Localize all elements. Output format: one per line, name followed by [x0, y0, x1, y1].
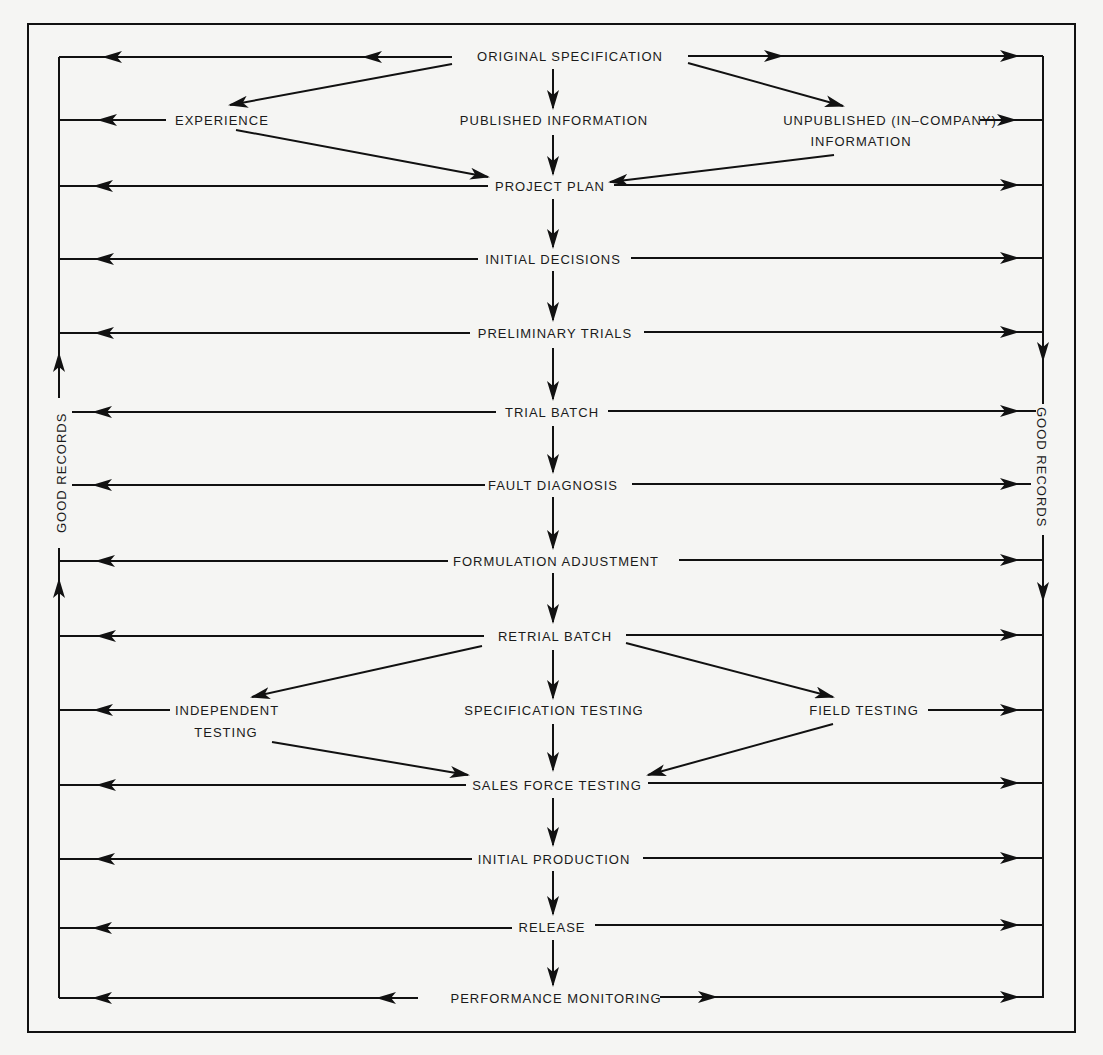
right-records-rail: GOOD RECORDS — [1034, 56, 1049, 998]
row-sales-force-testing: SALES FORCE TESTING — [59, 777, 1043, 845]
row-performance-monitoring: PERFORMANCE MONITORING — [59, 991, 1043, 1006]
node-initial-production: INITIAL PRODUCTION — [478, 852, 631, 867]
node-independent-testing: INDEPENDENT — [175, 703, 279, 718]
node-sales-force-testing: SALES FORCE TESTING — [472, 778, 642, 793]
node-independent-testing-line2: TESTING — [194, 725, 257, 740]
node-experience: EXPERIENCE — [175, 113, 269, 128]
row-formulation-adjustment: FORMULATION ADJUSTMENT — [59, 554, 1043, 622]
left-records-rail: GOOD RECORDS — [53, 57, 69, 998]
row-project-plan: PROJECT PLAN — [59, 179, 1043, 247]
left-rail-label: GOOD RECORDS — [54, 413, 69, 533]
node-original-specification: ORIGINAL SPECIFICATION — [477, 49, 663, 64]
row-information-sources: EXPERIENCE PUBLISHED INFORMATION UNPUBLI… — [59, 113, 1043, 182]
node-project-plan: PROJECT PLAN — [495, 179, 605, 194]
row-preliminary-trials: PRELIMINARY TRIALS — [59, 326, 1043, 399]
row-original-specification: ORIGINAL SPECIFICATION — [59, 49, 1043, 108]
node-fault-diagnosis: FAULT DIAGNOSIS — [488, 478, 618, 493]
node-formulation-adjustment: FORMULATION ADJUSTMENT — [453, 554, 659, 569]
row-trial-batch: TRIAL BATCH — [72, 405, 1036, 472]
node-unpublished-information: UNPUBLISHED (IN–COMPANY) — [783, 113, 997, 128]
node-published-information: PUBLISHED INFORMATION — [460, 113, 648, 128]
node-trial-batch: TRIAL BATCH — [505, 405, 599, 420]
node-unpublished-information-line2: INFORMATION — [810, 134, 911, 149]
node-retrial-batch: RETRIAL BATCH — [498, 629, 612, 644]
node-field-testing: FIELD TESTING — [809, 703, 919, 718]
row-retrial-batch: RETRIAL BATCH — [59, 629, 1043, 698]
row-initial-decisions: INITIAL DECISIONS — [59, 252, 1043, 320]
outer-frame — [28, 24, 1075, 1032]
node-preliminary-trials: PRELIMINARY TRIALS — [478, 326, 633, 341]
right-rail-label: GOOD RECORDS — [1034, 407, 1049, 527]
row-testing: INDEPENDENT TESTING SPECIFICATION TESTIN… — [59, 703, 1043, 775]
node-initial-decisions: INITIAL DECISIONS — [485, 252, 621, 267]
row-release: RELEASE — [59, 919, 1043, 985]
node-performance-monitoring: PERFORMANCE MONITORING — [451, 991, 662, 1006]
development-flow-diagram: GOOD RECORDS GOOD RECORDS ORIGINAL SPECI… — [0, 0, 1103, 1055]
row-initial-production: INITIAL PRODUCTION — [59, 852, 1043, 914]
node-specification-testing: SPECIFICATION TESTING — [464, 703, 643, 718]
node-release: RELEASE — [519, 920, 586, 935]
row-fault-diagnosis: FAULT DIAGNOSIS — [72, 478, 1031, 548]
